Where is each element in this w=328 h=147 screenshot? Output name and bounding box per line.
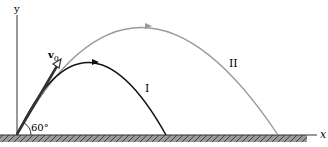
y-axis-label: y: [13, 3, 20, 14]
trajectory-II-label: II: [229, 57, 238, 70]
angle-arc: [24, 123, 31, 135]
x-axis-label: x: [320, 128, 327, 141]
projectile-diagram: y x v0 60° I II: [0, 0, 328, 147]
angle-label: 60°: [31, 122, 49, 133]
trajectory-I-label: I: [145, 82, 149, 95]
ground: [0, 135, 307, 142]
velocity-label: v0: [47, 49, 59, 63]
